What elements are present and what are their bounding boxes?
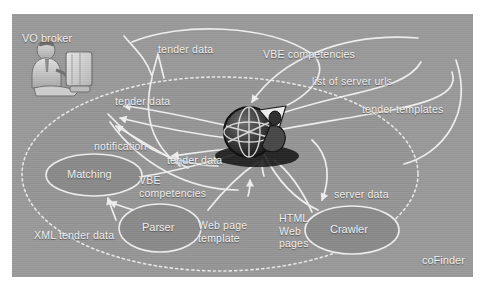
flow-label-web-page-template: Web page template — [198, 219, 247, 244]
flow-label-xml-tender-data: XML tender data — [34, 229, 114, 242]
flow-label-tender-data-2: tender data — [115, 95, 170, 108]
flow-label-server-data: server data — [334, 188, 389, 201]
diagram-panel: coFinder VO broker Matching Parser Crawl… — [12, 14, 473, 277]
node-label-crawler: Crawler — [330, 223, 368, 235]
flow-label-tender-data-1: tender data — [158, 43, 213, 56]
flow-label-tender-data-3: tender data — [167, 154, 222, 167]
flow-label-html-web-pages: HTML Web pages — [279, 212, 309, 250]
flow-label-notification: notification — [94, 140, 147, 153]
flow-label-tender-templates: tender templates — [362, 103, 443, 116]
actor-label-vo-broker: VO broker — [22, 32, 72, 44]
system-label: coFinder — [422, 254, 465, 266]
person-at-computer-icon — [32, 40, 92, 96]
node-label-parser: Parser — [142, 221, 174, 233]
node-label-matching: Matching — [67, 168, 112, 180]
flow-label-vbe-competencies-2: VBE competencies — [139, 174, 206, 199]
flow-label-list-of-server-urls: list of server urls — [312, 75, 392, 88]
flow-label-vbe-competencies-1: VBE competencies — [263, 48, 355, 61]
figure-canvas: coFinder VO broker Matching Parser Crawl… — [0, 0, 487, 294]
